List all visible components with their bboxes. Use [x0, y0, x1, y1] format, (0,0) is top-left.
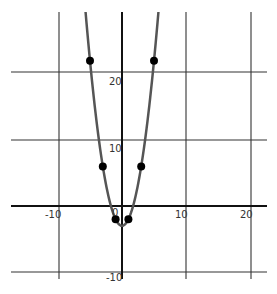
- data-point-marker: [86, 57, 94, 65]
- data-point-marker: [150, 57, 158, 65]
- grid: [11, 12, 267, 279]
- data-point-marker: [99, 162, 107, 170]
- x-tick-label: 0: [112, 207, 118, 218]
- x-tick-label: 10: [175, 209, 188, 220]
- x-tick-label: 20: [240, 209, 253, 220]
- parabola-chart: -10 0 10 20 20 10 -10: [0, 0, 277, 294]
- y-tick-label: 10: [109, 143, 122, 154]
- axes: [11, 12, 267, 279]
- y-tick-label: -10: [106, 272, 122, 283]
- x-tick-label: -10: [45, 209, 61, 220]
- data-point-marker: [124, 215, 132, 223]
- y-tick-label: 20: [109, 76, 122, 87]
- data-point-marker: [137, 162, 145, 170]
